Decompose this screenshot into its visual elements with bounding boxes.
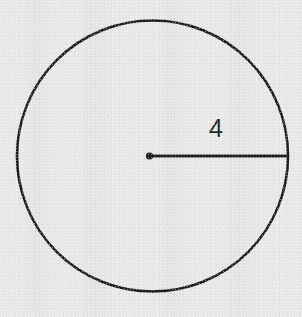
diagram-canvas: 4	[0, 0, 302, 317]
center-point-dot	[146, 152, 153, 159]
radius-measure-label: 4	[209, 116, 223, 141]
circle-figure	[0, 0, 302, 317]
